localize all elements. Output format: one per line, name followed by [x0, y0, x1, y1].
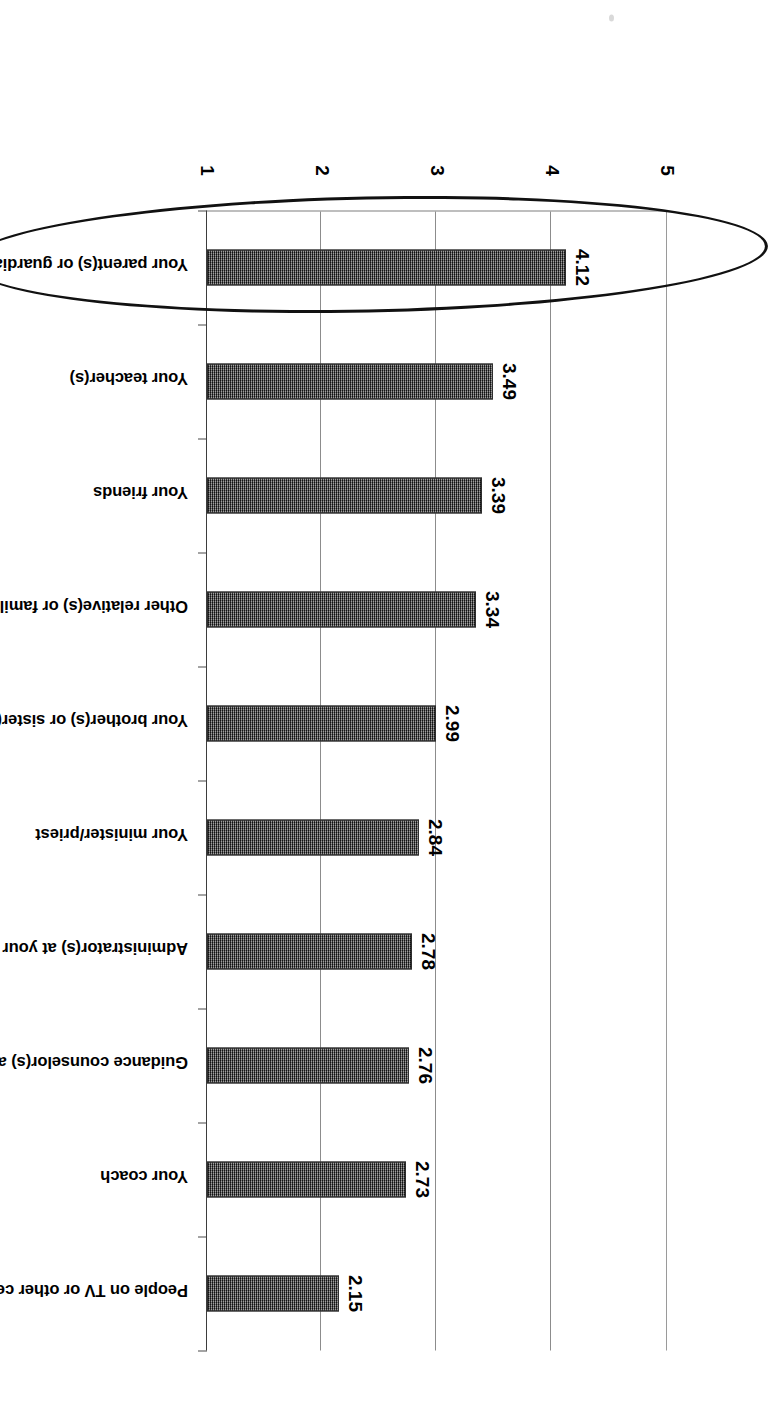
category-label: Your friends: [93, 482, 188, 501]
category-label: Administrator(s) at your school such as …: [0, 938, 188, 957]
category-label: Your minister/priest: [35, 824, 188, 843]
bar-value-label: 2.84: [424, 819, 446, 856]
bar-value-label: 3.34: [481, 591, 503, 628]
gridline-4: [550, 211, 551, 1350]
bar: [207, 933, 412, 969]
bar-value-label: 2.99: [441, 705, 463, 742]
bar: [207, 1275, 339, 1311]
bar-value-label: 4.12: [571, 249, 593, 286]
y-axis-tick-2: 2: [311, 150, 333, 190]
bar: [207, 819, 419, 855]
category-label: Other relative(s) or family member(s): [0, 596, 188, 615]
category-label: Your parent(s) or guardian(s): [0, 254, 188, 273]
category-label: Guidance counselor(s) at your school: [0, 1052, 188, 1071]
y-axis-tick-3: 3: [426, 150, 448, 190]
scan-artifact: [609, 14, 614, 21]
bar-value-label: 3.39: [487, 477, 509, 514]
y-axis-tick-5: 5: [656, 150, 678, 190]
bar: [207, 705, 436, 741]
y-axis-tick-1: 1: [196, 150, 218, 190]
category-label: Your coach: [100, 1166, 188, 1185]
y-axis-tick-4: 4: [541, 150, 563, 190]
bar-value-label: 2.76: [414, 1047, 436, 1084]
bar: [207, 1161, 406, 1197]
category-label: Your teacher(s): [70, 368, 188, 387]
bar-value-label: 2.78: [417, 933, 439, 970]
bar-value-label: 2.73: [411, 1161, 433, 1198]
bar-value-label: 3.49: [498, 363, 520, 400]
category-axis: [206, 210, 207, 1350]
bar: [207, 363, 493, 399]
bar: [207, 1047, 409, 1083]
category-label: People on TV or other celebrities: [0, 1280, 188, 1299]
category-label: Your brother(s) or sister(s): [0, 710, 188, 729]
bar-value-label: 2.15: [344, 1275, 366, 1312]
bar: [207, 249, 566, 285]
bar: [207, 477, 482, 513]
bar: [207, 591, 476, 627]
